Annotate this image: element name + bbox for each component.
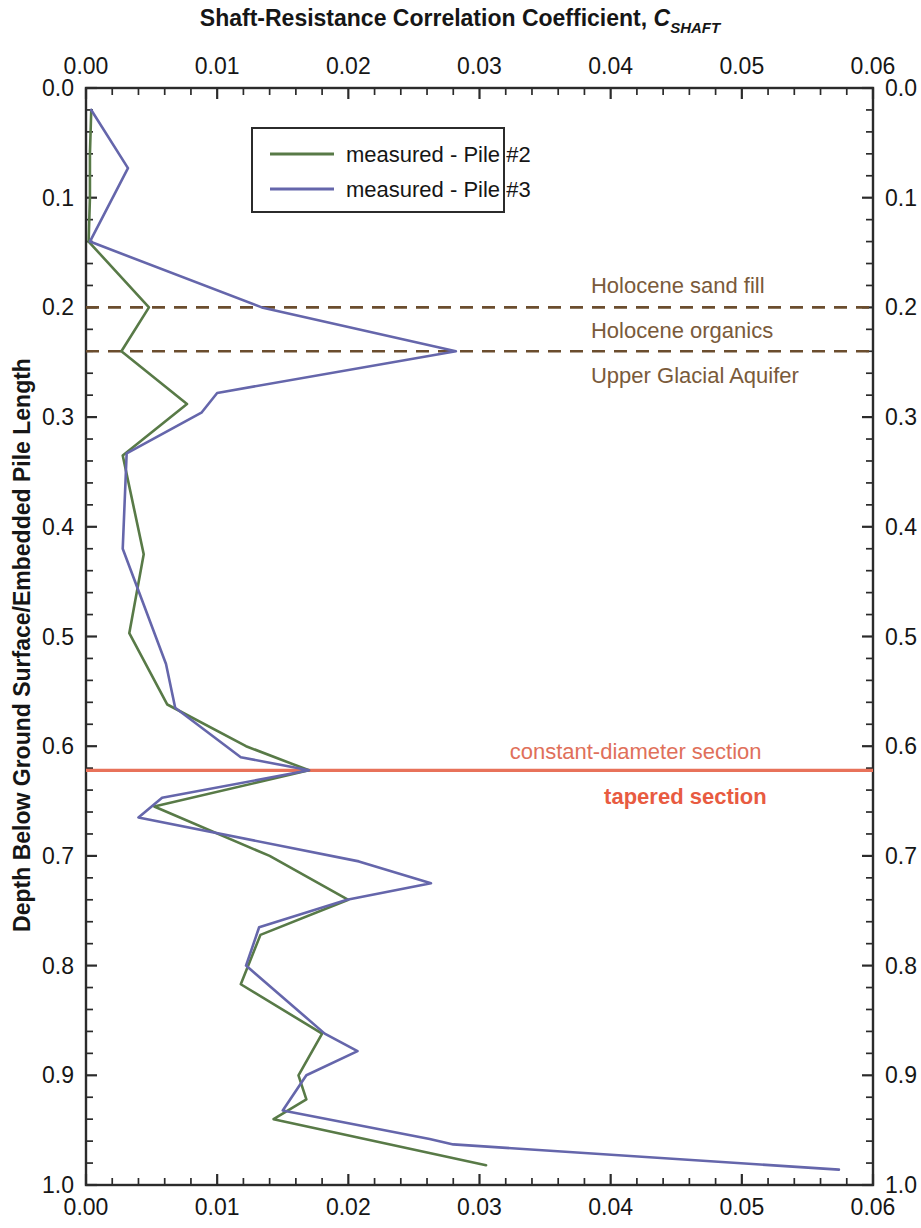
- chart-title: Shaft-Resistance Correlation Coefficient…: [200, 5, 722, 36]
- x-axis-tick-label-bottom: 0.01: [195, 1194, 240, 1220]
- chart-legend: measured - Pile #2measured - Pile #3: [252, 128, 531, 212]
- chart-title-main: Shaft-Resistance Correlation Coefficient…: [200, 5, 654, 31]
- y-axis-tick-label-left: 0.6: [42, 733, 74, 759]
- y-axis-tick-label-right: 0.1: [885, 185, 917, 211]
- x-axis-tick-label-top: 0.01: [195, 53, 240, 79]
- legend-label-2: measured - Pile #3: [346, 177, 531, 202]
- y-axis-tick-label-left: 0.1: [42, 185, 74, 211]
- chart-annotations-group: Holocene sand fillHolocene organicsUpper…: [510, 273, 799, 808]
- series-line-measured-pile-2: [89, 110, 486, 1165]
- x-axis-tick-label-bottom: 0.02: [326, 1194, 371, 1220]
- x-axis-tick-label-bottom: 0.03: [457, 1194, 502, 1220]
- x-axis-tick-label-bottom: 0.05: [719, 1194, 764, 1220]
- x-axis-bottom-tick-labels: 0.000.010.020.030.040.050.06: [64, 1194, 896, 1220]
- x-axis-tick-label-top: 0.02: [326, 53, 371, 79]
- y-axis-tick-label-left: 0.4: [42, 514, 74, 540]
- y-axis-tick-label-left: 0.8: [42, 953, 74, 979]
- y-axis-tick-label-right: 1.0: [885, 1172, 917, 1198]
- chart-figure: Shaft-Resistance Correlation Coefficient…: [0, 0, 921, 1228]
- chart-title-variable: C: [654, 5, 671, 31]
- y-axis-left-tick-labels: 0.00.10.20.30.40.50.60.70.80.91.0: [42, 75, 74, 1198]
- chart-title-group: Shaft-Resistance Correlation Coefficient…: [200, 5, 722, 36]
- y-axis-title: Depth Below Ground Surface/Embedded Pile…: [9, 358, 35, 932]
- y-axis-tick-label-right: 0.9: [885, 1062, 917, 1088]
- y-axis-tick-label-left: 0.5: [42, 624, 74, 650]
- annotation-holocene-sand-fill: Holocene sand fill: [591, 273, 765, 298]
- y-axis-tick-label-left: 0.9: [42, 1062, 74, 1088]
- shaft-resistance-depth-profile-chart: Shaft-Resistance Correlation Coefficient…: [0, 0, 921, 1228]
- y-axis-tick-label-left: 0.2: [42, 294, 74, 320]
- y-axis-tick-label-left: 0.3: [42, 404, 74, 430]
- legend-label-1: measured - Pile #2: [346, 142, 531, 167]
- plot-frame: [86, 88, 873, 1185]
- annotation-holocene-organics: Holocene organics: [591, 318, 773, 343]
- axes-group: [86, 88, 873, 1185]
- y-axis-tick-label-right: 0.7: [885, 843, 917, 869]
- y-axis-tick-label-right: 0.8: [885, 953, 917, 979]
- y-axis-tick-label-right: 0.0: [885, 75, 917, 101]
- x-axis-tick-label-top: 0.05: [719, 53, 764, 79]
- x-axis-tick-label-top: 0.04: [588, 53, 633, 79]
- annotation-tapered-section: tapered section: [604, 784, 767, 809]
- x-axis-tick-label-bottom: 0.04: [588, 1194, 633, 1220]
- chart-title-subscript: SHAFT: [670, 19, 722, 36]
- y-axis-right-tick-labels: 0.00.10.20.30.40.50.60.70.80.91.0: [885, 75, 917, 1198]
- x-axis-tick-label-top: 0.03: [457, 53, 502, 79]
- y-axis-tick-label-left: 0.7: [42, 843, 74, 869]
- y-axis-tick-label-left: 1.0: [42, 1172, 74, 1198]
- y-axis-title-group: Depth Below Ground Surface/Embedded Pile…: [9, 358, 35, 932]
- y-axis-tick-label-right: 0.4: [885, 514, 917, 540]
- data-series-group: [89, 110, 839, 1170]
- series-line-measured-pile-3: [90, 110, 839, 1170]
- y-axis-tick-label-right: 0.3: [885, 404, 917, 430]
- annotation-constant-diameter-section: constant-diameter section: [510, 739, 762, 764]
- y-axis-tick-label-right: 0.6: [885, 733, 917, 759]
- y-axis-tick-label-right: 0.5: [885, 624, 917, 650]
- annotation-upper-glacial-aquifer: Upper Glacial Aquifer: [591, 363, 799, 388]
- y-axis-tick-label-right: 0.2: [885, 294, 917, 320]
- y-axis-tick-label-left: 0.0: [42, 75, 74, 101]
- tick-marks-group: [86, 88, 873, 1185]
- x-axis-top-tick-labels: 0.000.010.020.030.040.050.06: [64, 53, 896, 79]
